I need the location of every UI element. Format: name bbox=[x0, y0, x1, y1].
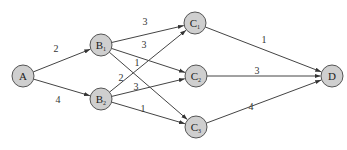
edge-b2-c1: 2 bbox=[110, 30, 187, 92]
edge-weight-label: 1 bbox=[262, 34, 267, 45]
edge-a-b1: 2 bbox=[33, 43, 90, 72]
node-b1: B1 bbox=[90, 34, 112, 56]
edge-weight-label: 3 bbox=[143, 16, 148, 27]
node-subscript: 2 bbox=[198, 77, 201, 83]
graph-diagram: 24331231134 AB1B2C1C2C3D bbox=[0, 0, 347, 150]
edges-layer: 24331231134 bbox=[33, 16, 321, 124]
node-d: D bbox=[321, 65, 343, 87]
node-subscript: 3 bbox=[198, 128, 201, 134]
node-c2: C2 bbox=[185, 65, 207, 87]
nodes-layer: AB1B2C1C2C3D bbox=[12, 12, 343, 138]
edge-b1-c1: 3 bbox=[112, 16, 184, 42]
edge-weight-label: 2 bbox=[54, 43, 59, 54]
edge-arrow-line bbox=[109, 52, 187, 119]
edge-c3-d: 4 bbox=[206, 80, 321, 123]
edge-weight-label: 3 bbox=[255, 65, 260, 76]
edge-weight-label: 4 bbox=[56, 94, 61, 105]
edge-a-b2: 4 bbox=[34, 79, 90, 105]
edge-arrow-line bbox=[112, 26, 184, 43]
edge-weight-label: 4 bbox=[249, 101, 254, 112]
node-label: A bbox=[19, 70, 27, 82]
node-subscript: 1 bbox=[103, 46, 106, 52]
node-c1: C1 bbox=[184, 12, 206, 34]
node-a: A bbox=[12, 65, 34, 87]
edge-weight-label: 1 bbox=[135, 57, 140, 68]
node-c3: C3 bbox=[185, 116, 207, 138]
edge-arrow-line bbox=[34, 79, 90, 96]
edge-arrow-line bbox=[206, 80, 321, 123]
edge-weight-label: 1 bbox=[141, 103, 146, 114]
edge-weight-label: 3 bbox=[134, 81, 139, 92]
node-label: D bbox=[328, 70, 336, 82]
node-subscript: 2 bbox=[103, 100, 106, 106]
edge-b1-c3: 1 bbox=[109, 52, 187, 119]
edge-b1-c2: 3 bbox=[111, 39, 185, 72]
edge-weight-label: 2 bbox=[119, 72, 124, 83]
edge-b2-c3: 1 bbox=[112, 102, 185, 124]
edge-c1-d: 1 bbox=[205, 27, 321, 72]
node-subscript: 1 bbox=[197, 24, 200, 30]
edge-weight-label: 3 bbox=[142, 39, 147, 50]
node-b2: B2 bbox=[90, 88, 112, 110]
edge-arrow-line bbox=[33, 49, 90, 72]
edge-arrow-line bbox=[112, 102, 185, 124]
edge-c2-d: 3 bbox=[207, 65, 321, 76]
